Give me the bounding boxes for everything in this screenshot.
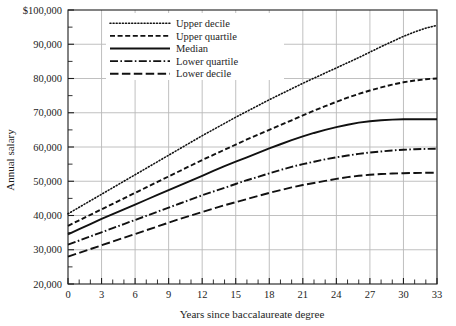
y-tick-label: 50,000 [33, 176, 62, 187]
x-tick-label: 15 [230, 289, 241, 300]
x-tick-label: 21 [298, 289, 309, 300]
x-tick-label: 12 [197, 289, 208, 300]
y-tick-label: 60,000 [33, 142, 62, 153]
y-tick-label: 40,000 [33, 210, 62, 221]
y-tick-label: $100,000 [23, 5, 62, 16]
legend-label-upper-quartile: Upper quartile [176, 31, 237, 42]
y-axis-title: Annual salary [4, 129, 16, 191]
legend-label-upper-decile: Upper decile [176, 18, 230, 29]
x-tick-label: 6 [132, 289, 137, 300]
x-tick-label: 9 [166, 289, 171, 300]
legend-label-lower-quartile: Lower quartile [176, 56, 238, 67]
y-tick-label: 70,000 [33, 107, 62, 118]
x-tick-label: 18 [264, 289, 275, 300]
legend-label-median: Median [176, 43, 209, 54]
salary-percentile-chart: 20,00030,00040,00050,00060,00070,00080,0… [0, 0, 456, 326]
x-tick-label: 24 [331, 289, 342, 300]
y-tick-label: 30,000 [33, 244, 62, 255]
x-tick-label: 30 [398, 289, 409, 300]
legend-label-lower-decile: Lower decile [176, 68, 231, 79]
chart-legend: Upper decileUpper quartileMedianLower qu… [106, 13, 284, 80]
y-tick-label: 20,000 [33, 279, 62, 290]
y-tick-label: 80,000 [33, 73, 62, 84]
x-tick-label: 0 [65, 289, 70, 300]
x-tick-label: 3 [99, 289, 104, 300]
x-axis-title: Years since baccalaureate degree [180, 308, 325, 320]
x-tick-label: 27 [365, 289, 376, 300]
x-tick-label: 33 [432, 289, 443, 300]
y-tick-label: 90,000 [33, 39, 62, 50]
chart-canvas: 20,00030,00040,00050,00060,00070,00080,0… [0, 0, 456, 326]
